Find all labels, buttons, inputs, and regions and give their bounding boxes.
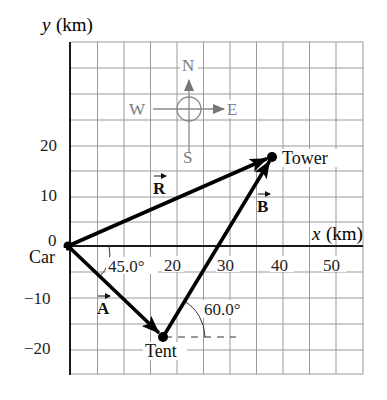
compass-east: E [227, 100, 237, 119]
x-axis-label-unit: (km) [326, 223, 363, 245]
y-tick-minus-10: −10 [24, 289, 51, 308]
tower-point [267, 152, 277, 162]
y-tick-minus-20: −20 [24, 339, 51, 358]
vector-b-label-group: B [257, 194, 270, 216]
compass-rose: N W E S [127, 55, 242, 167]
y-axis-label-unit: (km) [56, 14, 93, 36]
tent-label: Tent [145, 341, 177, 361]
tower-label: Tower [282, 148, 328, 168]
y-tick-10: 10 [40, 186, 57, 205]
compass-west: W [129, 100, 146, 119]
vector-r-label: R [153, 179, 166, 198]
vector-diagram: y (km) x (km) 20 10 0 −10 −20 20 30 40 5… [0, 0, 387, 400]
angle-arc-b [184, 301, 205, 337]
x-axis-label-var: x [311, 223, 321, 244]
vector-a-label: A [97, 299, 110, 318]
vector-r-label-group: R [153, 176, 166, 198]
vector-b-label: B [257, 197, 268, 216]
angle-b-label: 60.0° [204, 300, 241, 319]
grid [71, 42, 363, 374]
vector-a-label-group: A [97, 296, 110, 318]
x-tick-50: 50 [323, 256, 340, 275]
compass-south: S [183, 148, 192, 167]
diagram-canvas: y (km) x (km) 20 10 0 −10 −20 20 30 40 5… [0, 0, 387, 400]
x-tick-40: 40 [271, 256, 288, 275]
y-axis-label-var: y [40, 14, 51, 35]
angle-a-label: 45.0° [108, 257, 145, 276]
x-tick-20: 20 [164, 256, 181, 275]
y-tick-20: 20 [40, 136, 57, 155]
car-label: Car [29, 247, 55, 267]
x-tick-30: 30 [217, 256, 234, 275]
compass-north: N [182, 56, 194, 75]
